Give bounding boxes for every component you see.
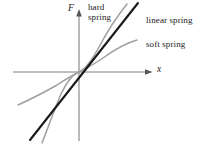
linear-spring-label: linear spring	[146, 16, 193, 26]
x-axis-label: x	[157, 64, 161, 74]
hard-spring-label: hard spring	[88, 3, 111, 22]
hard-spring-curve	[42, 4, 127, 143]
hard-spring-label-line-2: spring	[88, 13, 111, 23]
x-axis-arrowhead	[145, 69, 153, 75]
spring-force-diagram: F x hard spring linear spring soft sprin…	[0, 0, 206, 147]
f-axis-arrowhead	[76, 9, 82, 17]
f-axis-label: F	[68, 3, 74, 13]
soft-spring-label: soft spring	[146, 40, 185, 50]
